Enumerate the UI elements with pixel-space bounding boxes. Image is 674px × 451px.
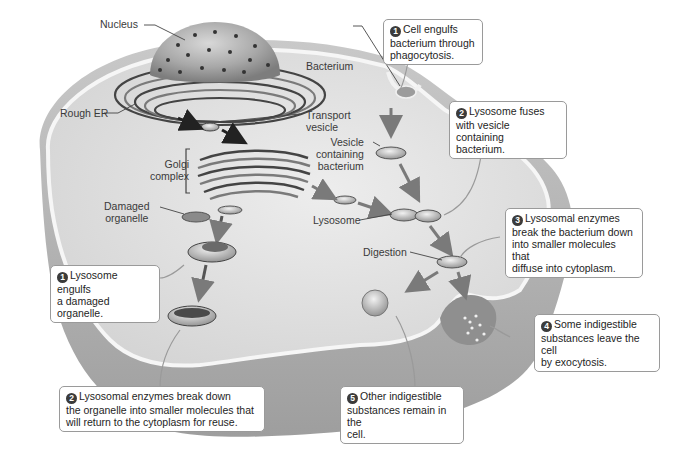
step-badge: 1 [390,26,401,37]
callout-step-2-fusion: 2Lysosome fuses with vesicle containing … [449,101,567,159]
step-text: Lysosome fuses with vesicle containing b… [456,105,544,155]
label-bacterium: Bacterium [306,60,353,72]
step-badge: 1 [57,272,68,283]
label-rough-er: Rough ER [60,107,108,119]
golgi-vesicle-right [334,196,356,204]
residual-body-shape [362,290,388,316]
damaged-organelle-shape [182,212,210,222]
engulfed-organelle [202,242,228,252]
step-text: Lysosomal enzymes break the bacterium do… [512,212,633,274]
step-badge: 4 [541,321,552,332]
step-badge: 2 [66,393,77,404]
step-text: Lysosomal enzymes break down the organel… [66,390,254,428]
callout-step-1-phagocytosis: 1Cell engulfs bacterium through phagocyt… [383,19,483,65]
label-lysosome: Lysosome [313,214,360,226]
golgi-vesicle-left [218,206,242,214]
label-damaged-organelle: Damaged organelle [104,200,150,224]
bacterium-shape [396,86,416,98]
nucleus-shape [150,22,280,83]
digested-contents [174,308,210,318]
label-golgi-complex: Golgi complex [150,158,189,182]
callout-step-5-residual: 5Other indigestible substances remain in… [340,386,464,444]
step-text: Some indigestible substances leave the c… [541,318,640,368]
label-digestion: Digestion [363,246,407,258]
lysosome-diagram: Nucleus Rough ER Golgi complex Damaged o… [0,0,674,451]
step-text: Other indigestible substances remain in … [347,390,446,440]
callout-step-4-exocytosis: 4Some indigestible substances leave the … [534,314,660,372]
callout-step-3-digestion: 3Lysosomal enzymes break the bacterium d… [505,208,643,278]
callout-step-1-engulf-organelle: 1Lysosome engulfs a damaged organelle. [50,265,160,323]
step-badge: 2 [456,108,467,119]
step-badge: 3 [512,215,523,226]
callout-step-2-break-down-organelle: 2Lysosomal enzymes break down the organe… [59,386,265,432]
digestion-vesicle-shape [437,256,467,268]
step-badge: 5 [347,393,358,404]
label-vesicle-containing-bacterium: Vesicle containing bacterium [316,136,364,172]
transport-vesicle-shape [201,123,219,131]
vesicle-bacterium-shape [376,147,406,159]
label-nucleus: Nucleus [100,18,138,30]
step-text: Cell engulfs bacterium through phagocyto… [390,23,475,61]
label-transport-vesicle: Transport vesicle [306,109,351,133]
